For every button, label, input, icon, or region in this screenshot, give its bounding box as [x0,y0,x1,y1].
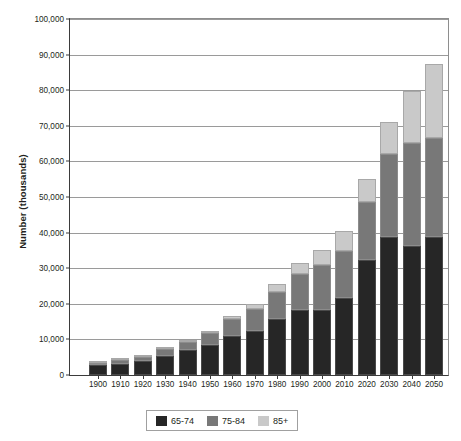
bar-segment-65-74 [156,356,174,375]
bar-segment-75-84 [179,342,197,350]
x-axis-tick-label: 2050 [425,380,443,389]
bar-segment-75-84 [201,333,219,345]
y-axis-tick-label: 80,000 [39,86,64,95]
y-axis-tick-label: 50,000 [39,193,64,202]
bar-segment-65-74 [111,364,129,375]
bar-segment-75-84 [246,309,264,331]
y-axis-tick-label: 10,000 [39,335,64,344]
x-axis-tick-mark [232,375,233,379]
legend-entry: 85+ [258,416,288,426]
bar-segment-75-84 [425,138,443,236]
legend-swatch-65-74 [156,416,167,426]
bar-segment-75-84 [335,251,353,297]
x-axis-tick-mark [188,375,189,379]
bar-segment-85-plus [335,231,353,252]
stacked-bar-chart: Number (thousands) 010,00020,00030,00040… [0,0,461,441]
bar-segment-75-84 [313,265,331,309]
y-axis-tick-label: 40,000 [39,228,64,237]
x-axis-tick-mark [344,375,345,379]
x-axis-tick-label: 1910 [111,380,129,389]
bar-segment-65-74 [134,361,152,375]
x-axis-tick-mark [322,375,323,379]
bar-segment-65-74 [223,336,241,375]
bar-segment-85-plus [425,64,443,138]
y-axis-tick-label: 70,000 [39,121,64,130]
x-axis-tick-mark [277,375,278,379]
bar-segment-65-74 [179,350,197,375]
y-axis-title: Number (thousands) [17,122,28,282]
bar-segment-65-74 [89,365,107,375]
x-axis-tick-mark [255,375,256,379]
plot-area: 010,00020,00030,00040,00050,00060,00070,… [69,18,449,376]
gridline [70,375,448,376]
x-axis-tick-label: 1950 [201,380,219,389]
legend-entry: 75-84 [207,416,245,426]
legend-entry: 65-74 [156,416,194,426]
bar-segment-85-plus [358,179,376,202]
bar-segment-75-84 [111,360,129,364]
legend-label: 65-74 [171,416,194,426]
y-axis-tick-label: 100,000 [34,15,64,24]
x-axis-tick-mark [300,375,301,379]
x-axis-tick-label: 1960 [223,380,241,389]
bar-segment-85-plus [380,122,398,154]
x-axis-tick-label: 2000 [313,380,331,389]
bar-segment-75-84 [223,319,241,335]
x-axis-tick-label: 2030 [380,380,398,389]
bar-segment-65-74 [246,331,264,375]
bar-segment-85-plus [223,316,241,319]
bar-segment-85-plus [111,358,129,360]
bar-segment-65-74 [313,310,331,376]
bar-segment-65-74 [268,319,286,375]
x-axis-tick-mark [367,375,368,379]
bar-segment-75-84 [358,202,376,260]
bar-segment-65-74 [335,298,353,375]
x-axis-tick-mark [143,375,144,379]
x-axis-tick-label: 1930 [156,380,174,389]
bar-segment-85-plus [268,284,286,292]
x-axis-tick-mark [120,375,121,379]
x-axis-tick-label: 2010 [335,380,353,389]
y-axis-tick-label: 0 [59,371,64,380]
chart-legend: 65-7475-8485+ [146,410,298,431]
legend-swatch-75-84 [207,416,218,426]
x-axis-tick-label: 1940 [178,380,196,389]
bar-segment-65-74 [291,310,309,376]
legend-swatch-85-plus [258,416,269,426]
bar-segment-65-74 [358,260,376,375]
x-axis-tick-mark [165,375,166,379]
y-axis-tick-label: 90,000 [39,50,64,59]
x-axis-tick-label: 2040 [402,380,420,389]
x-axis-tick-mark [434,375,435,379]
bar-segment-65-74 [380,237,398,375]
x-axis-tick-label: 1900 [89,380,107,389]
y-axis-tick-label: 20,000 [39,299,64,308]
x-axis-tick-label: 1990 [290,380,308,389]
legend-label: 85+ [273,416,288,426]
bar-segment-85-plus [134,355,152,357]
bar-segment-65-74 [425,237,443,375]
bar-segment-85-plus [313,250,331,265]
legend-label: 75-84 [222,416,245,426]
x-axis-tick-label: 1980 [268,380,286,389]
bar-segment-75-84 [89,363,107,366]
bar-segment-75-84 [403,143,421,246]
bar-segment-75-84 [134,357,152,362]
x-axis-tick-label: 1920 [134,380,152,389]
x-axis-tick-label: 1970 [246,380,264,389]
bar-segment-75-84 [268,292,286,319]
bar-segment-85-plus [246,304,264,309]
bar-segment-85-plus [156,347,174,349]
bar-segment-85-plus [89,361,107,363]
bar-segment-75-84 [156,349,174,355]
x-axis-tick-mark [389,375,390,379]
y-axis-tick-label: 60,000 [39,157,64,166]
bar-segment-65-74 [201,345,219,375]
bar-segment-85-plus [403,91,421,143]
x-axis-tick-mark [210,375,211,379]
bar-segment-85-plus [179,340,197,342]
bar-segment-65-74 [403,246,421,375]
x-axis-tick-label: 2020 [358,380,376,389]
x-axis-tick-mark [412,375,413,379]
bar-segment-85-plus [201,331,219,333]
